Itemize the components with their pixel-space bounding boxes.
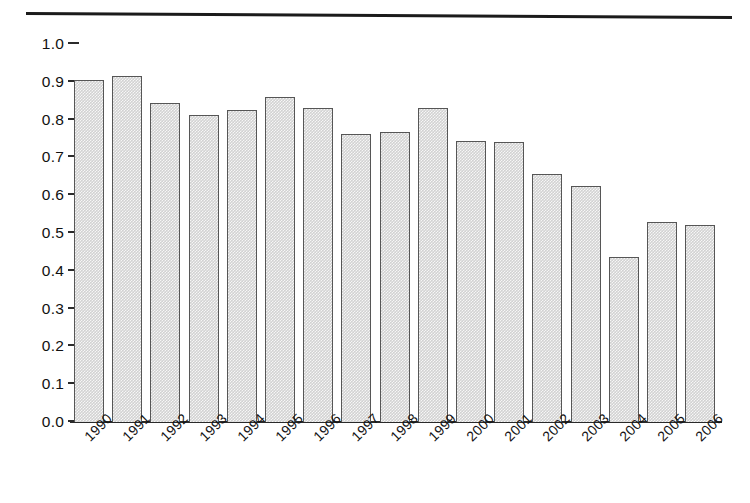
- y-axis-tick-label: 0.8: [18, 112, 64, 128]
- bar: [532, 174, 562, 422]
- y-axis-tick-mark: [68, 42, 79, 44]
- bar: [265, 97, 295, 422]
- bar: [227, 110, 257, 422]
- y-axis-tick-label: 0.2: [18, 338, 64, 354]
- bar-chart-plot: 0.00.10.20.30.40.50.60.70.80.91.01990199…: [0, 0, 750, 503]
- bar: [571, 186, 601, 422]
- y-axis-tick-label: 0.7: [18, 149, 64, 165]
- y-axis-tick-label: 0.3: [18, 301, 64, 317]
- y-axis-tick-label: 0.5: [18, 225, 64, 241]
- y-axis-tick-label: 0.0: [18, 414, 64, 430]
- bar: [150, 103, 180, 422]
- bar: [494, 142, 524, 422]
- bar: [418, 108, 448, 422]
- bar: [303, 108, 333, 422]
- bar: [380, 132, 410, 422]
- bar: [456, 141, 486, 422]
- y-axis-tick-label: 1.0: [18, 36, 64, 52]
- bar: [685, 225, 715, 422]
- y-axis-tick-label: 0.9: [18, 74, 64, 90]
- figure: 0.00.10.20.30.40.50.60.70.80.91.01990199…: [0, 0, 750, 503]
- bar: [647, 222, 677, 422]
- bar: [341, 134, 371, 422]
- bar: [189, 115, 219, 422]
- bar: [609, 257, 639, 422]
- bar: [112, 76, 142, 422]
- bar: [74, 80, 104, 422]
- y-axis-tick-label: 0.6: [18, 187, 64, 203]
- y-axis-tick-label: 0.4: [18, 263, 64, 279]
- y-axis-tick-label: 0.1: [18, 376, 64, 392]
